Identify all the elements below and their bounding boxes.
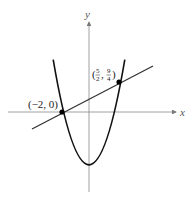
svg-text:5: 5 xyxy=(96,67,100,75)
svg-text:2: 2 xyxy=(96,75,100,83)
x-axis-label: x xyxy=(179,106,185,118)
label-point-right: ( 5 2 , 9 4 ) xyxy=(92,67,116,83)
svg-text:): ) xyxy=(112,68,116,81)
svg-text:,: , xyxy=(101,68,104,80)
y-axis-label: y xyxy=(84,8,90,20)
graph-canvas: x y (−2, 0) ( 5 2 , 9 4 ) xyxy=(0,0,195,197)
svg-text:9: 9 xyxy=(107,67,111,75)
svg-text:4: 4 xyxy=(107,75,111,83)
graph-figure: x y (−2, 0) ( 5 2 , 9 4 ) xyxy=(0,0,195,197)
intersection-point-left xyxy=(59,109,64,114)
label-point-left: (−2, 0) xyxy=(28,98,58,111)
intersection-point-right xyxy=(116,79,121,84)
